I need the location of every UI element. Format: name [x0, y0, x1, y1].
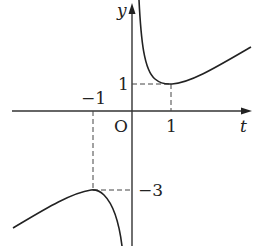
curve-right-branch: [139, 0, 251, 84]
y-axis-arrow-icon: [129, 3, 136, 14]
curve-left-branch: [13, 190, 122, 246]
tick-label-y-neg3: −3: [138, 182, 163, 199]
tick-label-t-1: 1: [166, 118, 177, 135]
y-axis-label: y: [117, 2, 127, 19]
t-axis-arrow-icon: [241, 108, 252, 115]
tick-label-t-neg1: −1: [81, 90, 106, 107]
graph: y t O 1 −1 1 −3: [0, 0, 259, 246]
t-axis-label: t: [240, 118, 247, 135]
origin-label: O: [114, 118, 128, 135]
tick-label-y-1: 1: [118, 76, 129, 93]
plot-area: [0, 0, 259, 246]
